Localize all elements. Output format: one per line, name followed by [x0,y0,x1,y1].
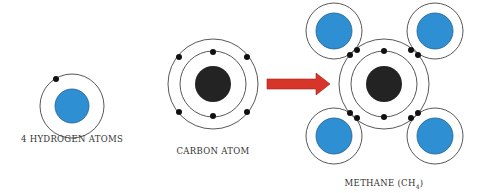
methane-label: METHANE (CH4) [345,178,424,190]
methane-label-text: METHANE (CH [345,178,416,188]
hydrogen-atom [40,74,104,138]
carbon-label: CARBON ATOM [177,146,250,156]
methane-formation-diagram [0,0,485,193]
hydrogen-label: 4 HYDROGEN ATOMS [21,134,123,144]
reaction-arrow [267,73,330,95]
carbon-atom [168,39,258,129]
methane-label-close: ) [420,178,424,188]
